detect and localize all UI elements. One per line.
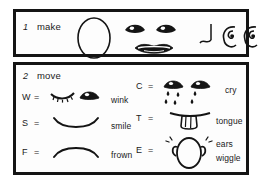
- ear-right-icon: [242, 25, 261, 49]
- section-title-make: make: [37, 21, 61, 32]
- legend-diagram: 1 make: [0, 0, 261, 184]
- equals-W: =: [34, 92, 40, 102]
- label-tongue: tongue: [216, 116, 243, 126]
- key-T: T: [136, 113, 142, 123]
- equals-E: =: [148, 145, 154, 155]
- tongue-out-icon: [168, 110, 212, 132]
- key-S: S: [22, 118, 29, 128]
- wiggle-ears-icon: [166, 133, 212, 169]
- label-ears: ears: [216, 139, 233, 149]
- label-frown: frown: [111, 150, 132, 160]
- eyes-icon: [124, 22, 180, 36]
- face-oval-icon: [73, 16, 115, 60]
- equals-F: =: [34, 147, 40, 157]
- section-title-move: move: [37, 70, 61, 81]
- section-move-panel: 2 move W = wink S =: [13, 62, 249, 175]
- section-number-1: 1: [23, 22, 28, 32]
- nose-icon: [198, 23, 220, 49]
- smile-mouth-icon: [52, 116, 100, 130]
- frown-mouth-icon: [52, 145, 100, 159]
- equals-S: =: [34, 118, 40, 128]
- section-make-panel: 1 make: [13, 9, 249, 57]
- label-cry: cry: [225, 85, 237, 95]
- key-E: E: [136, 145, 143, 155]
- key-W: W: [22, 92, 31, 102]
- crying-eyes-icon: [162, 77, 214, 107]
- section-number-2: 2: [23, 71, 28, 81]
- ear-left-icon: [221, 25, 240, 49]
- lips-icon: [134, 42, 174, 56]
- key-C: C: [136, 81, 143, 91]
- label-wiggle: wiggle: [216, 153, 241, 163]
- equals-T: =: [148, 113, 154, 123]
- equals-C: =: [148, 81, 154, 91]
- label-smile: smile: [111, 121, 131, 131]
- key-F: F: [22, 147, 28, 157]
- label-wink: wink: [111, 95, 128, 105]
- wink-eyes-icon: [49, 87, 103, 103]
